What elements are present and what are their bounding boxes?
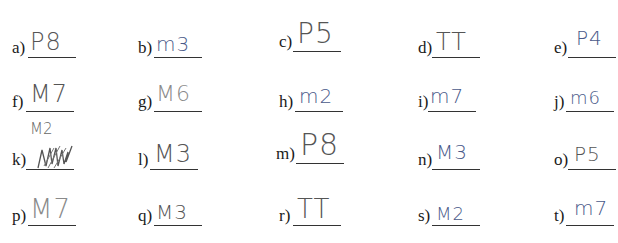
- item-e: e) P4: [554, 22, 618, 62]
- handwritten-answer: m7: [574, 196, 608, 220]
- item-k: k) M2: [12, 134, 122, 174]
- handwritten-answer: P8: [300, 127, 339, 162]
- handwritten-answer: M3: [154, 140, 192, 168]
- item-label: f): [12, 92, 23, 112]
- handwritten-answer: P8: [30, 28, 62, 56]
- handwritten-answer: m6: [570, 87, 601, 108]
- answer-blank: [28, 57, 76, 58]
- handwritten-answer: m7: [430, 84, 464, 108]
- handwritten-answer: TT: [436, 28, 467, 56]
- answer-blank: [154, 57, 202, 58]
- handwritten-answer: P4: [576, 26, 603, 50]
- item-label: q): [138, 206, 152, 226]
- handwritten-answer: M6: [156, 81, 191, 106]
- item-label: h): [279, 92, 293, 112]
- item-d: d) TT: [418, 22, 528, 62]
- answer-blank: [568, 169, 616, 170]
- item-j: j) m6: [554, 76, 618, 116]
- answer-blank: [568, 57, 616, 58]
- answer-blank: [293, 225, 341, 226]
- answer-blank: [150, 169, 198, 170]
- handwritten-answer: M7: [30, 80, 68, 108]
- item-q: q) M3: [138, 190, 248, 230]
- item-label: g): [138, 92, 152, 112]
- item-g: g) M6: [138, 76, 248, 116]
- answer-blank: [432, 225, 480, 226]
- answer-blank: [566, 111, 614, 112]
- answer-blank: [28, 225, 76, 226]
- item-a: a) P8: [12, 22, 122, 62]
- answer-blank: [154, 225, 202, 226]
- answer-blank: [432, 169, 480, 170]
- answer-blank: [296, 163, 344, 164]
- answer-blank: [26, 111, 74, 112]
- item-label: n): [418, 150, 432, 170]
- item-m: m) P8: [276, 128, 386, 168]
- answer-blank: [432, 57, 480, 58]
- handwritten-answer: TT: [297, 194, 330, 224]
- item-label: p): [12, 206, 26, 226]
- handwritten-answer: m2: [299, 84, 333, 108]
- item-label: l): [138, 150, 148, 170]
- handwritten-answer: P5: [297, 17, 334, 50]
- scribbled-out-answer-icon: [36, 144, 76, 170]
- handwritten-answer: m3: [156, 32, 190, 56]
- item-label: a): [12, 38, 25, 58]
- item-r: r) TT: [279, 190, 389, 230]
- item-t: t) m7: [554, 190, 618, 230]
- item-l: l) M3: [138, 134, 248, 174]
- item-label: o): [554, 150, 568, 170]
- answer-blank: [295, 111, 343, 112]
- item-s: s) M2: [418, 190, 528, 230]
- handwritten-answer: M3: [436, 140, 468, 164]
- item-label: t): [554, 206, 564, 226]
- answer-worksheet: a) P8 b) m3 c) P5 d) TT e) P4 f) M7 g) M…: [0, 0, 618, 243]
- item-p: p) M7: [12, 190, 122, 230]
- item-label: i): [418, 92, 428, 112]
- correction-text: M2: [30, 120, 53, 138]
- item-label: e): [554, 38, 567, 58]
- item-label: d): [418, 38, 432, 58]
- item-label: r): [279, 206, 290, 226]
- handwritten-answer: M2: [436, 203, 465, 224]
- item-h: h) m2: [279, 76, 389, 116]
- item-label: s): [418, 206, 430, 226]
- handwritten-answer: M3: [156, 200, 188, 224]
- item-o: o) P5: [554, 134, 618, 174]
- item-f: f) M7: [12, 76, 122, 116]
- item-label: m): [276, 144, 295, 164]
- answer-blank: [154, 111, 202, 112]
- item-label: k): [12, 150, 26, 170]
- item-b: b) m3: [138, 22, 248, 62]
- item-i: i) m7: [418, 76, 528, 116]
- answer-blank: [566, 225, 614, 226]
- item-label: b): [138, 38, 152, 58]
- item-label: j): [554, 92, 564, 112]
- answer-blank: [428, 111, 476, 112]
- item-n: n) M3: [418, 134, 528, 174]
- handwritten-answer: P5: [574, 142, 601, 166]
- item-c: c) P5: [279, 16, 389, 56]
- handwritten-answer: M7: [30, 194, 71, 224]
- answer-blank: [293, 51, 341, 52]
- item-label: c): [279, 32, 292, 52]
